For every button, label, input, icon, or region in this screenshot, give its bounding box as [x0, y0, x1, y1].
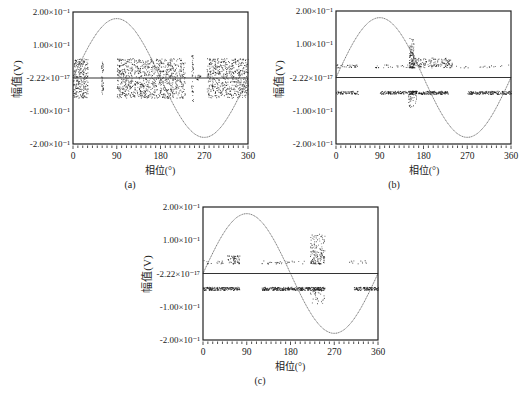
y-tick-label: -2.00×10⁻¹	[30, 139, 71, 149]
y-tick-label: -2.22×10⁻¹⁷	[27, 73, 70, 83]
scatter-points	[203, 234, 379, 304]
scatter-points	[336, 38, 512, 108]
panel-c: 0901802703602.00×10⁻¹1.00×10⁻¹-2.22×10⁻¹…	[130, 195, 390, 393]
x-axis-label: 相位(°)	[130, 162, 190, 177]
x-tick-label: 90	[112, 151, 122, 161]
y-axis-label: 幅值(V)	[8, 49, 24, 109]
x-tick-label: 90	[375, 151, 385, 161]
x-tick-label: 360	[504, 151, 519, 161]
x-tick-label: 90	[242, 347, 252, 357]
panel-caption: (b)	[374, 179, 414, 190]
y-tick-label: -1.00×10⁻¹	[160, 302, 201, 312]
y-tick-label: 2.00×10⁻¹	[296, 6, 334, 16]
plot-b: 0901802703602.00×10⁻¹1.00×10⁻¹-2.22×10⁻¹…	[260, 0, 520, 195]
x-tick-label: 0	[71, 151, 76, 161]
panel-a: 0901802703602.00×10⁻¹1.00×10⁻¹-2.22×10⁻¹…	[0, 0, 260, 195]
x-axis-ticks	[203, 342, 378, 346]
x-tick-label: 270	[460, 151, 475, 161]
x-tick-label: 180	[283, 347, 298, 357]
x-tick-label: 180	[153, 151, 168, 161]
y-tick-label: 2.00×10⁻¹	[163, 202, 201, 212]
x-axis-ticks	[336, 146, 511, 150]
x-tick-label: 0	[201, 347, 206, 357]
x-tick-label: 270	[197, 151, 212, 161]
y-tick-label: -1.00×10⁻¹	[30, 106, 71, 116]
y-tick-label: -2.00×10⁻¹	[160, 335, 201, 345]
x-tick-label: 360	[241, 151, 256, 161]
panel-caption: (c)	[240, 375, 280, 386]
x-tick-label: 360	[371, 347, 386, 357]
x-tick-label: 270	[327, 347, 342, 357]
y-axis-label: 幅值(V)	[138, 244, 154, 304]
y-tick-label: 2.00×10⁻¹	[33, 7, 71, 17]
y-tick-label: 1.00×10⁻¹	[296, 39, 334, 49]
x-tick-label: 0	[334, 151, 339, 161]
y-tick-label: -1.00×10⁻¹	[293, 106, 334, 116]
panel-b: 0901802703602.00×10⁻¹1.00×10⁻¹-2.22×10⁻¹…	[260, 0, 520, 195]
y-tick-label: -2.22×10⁻¹⁷	[290, 73, 333, 83]
panel-caption: (a)	[110, 179, 150, 190]
y-tick-label: -2.22×10⁻¹⁷	[157, 269, 200, 279]
y-tick-label: 1.00×10⁻¹	[33, 40, 71, 50]
y-tick-label: 1.00×10⁻¹	[163, 235, 201, 245]
y-tick-label: -2.00×10⁻¹	[293, 139, 334, 149]
y-axis-label: 幅值(V)	[270, 49, 286, 109]
x-axis-label: 相位(°)	[394, 162, 454, 177]
x-tick-label: 180	[416, 151, 431, 161]
x-axis-ticks	[73, 146, 248, 150]
x-axis-label: 相位(°)	[260, 358, 320, 373]
